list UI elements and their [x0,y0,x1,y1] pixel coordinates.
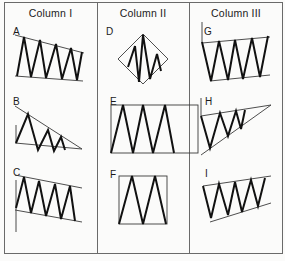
price-zigzag [201,110,245,148]
price-zigzag [16,114,65,151]
lower-trendline [15,210,82,222]
figure-d [118,34,168,84]
figure-h [201,98,271,155]
figure-a [15,35,84,81]
lower-trendline [15,76,83,81]
figure-c [15,175,82,232]
upper-trendline [203,176,271,186]
price-zigzag [111,105,174,153]
price-zigzag [202,36,268,81]
figure-drawings [0,0,285,261]
lower-trendline [15,143,82,149]
figure-g [202,22,270,81]
price-zigzag [17,37,82,80]
price-zigzag [16,177,75,221]
figure-b [15,106,82,151]
upper-trendline [15,106,82,149]
figure-e [111,105,198,153]
figure-f [119,176,167,224]
pattern-diagram: Column I Column II Column III ABCDEFGHI [0,0,285,261]
figure-i [203,176,271,222]
price-zigzag [119,176,166,224]
price-zigzag [128,35,161,82]
price-zigzag [203,178,265,218]
